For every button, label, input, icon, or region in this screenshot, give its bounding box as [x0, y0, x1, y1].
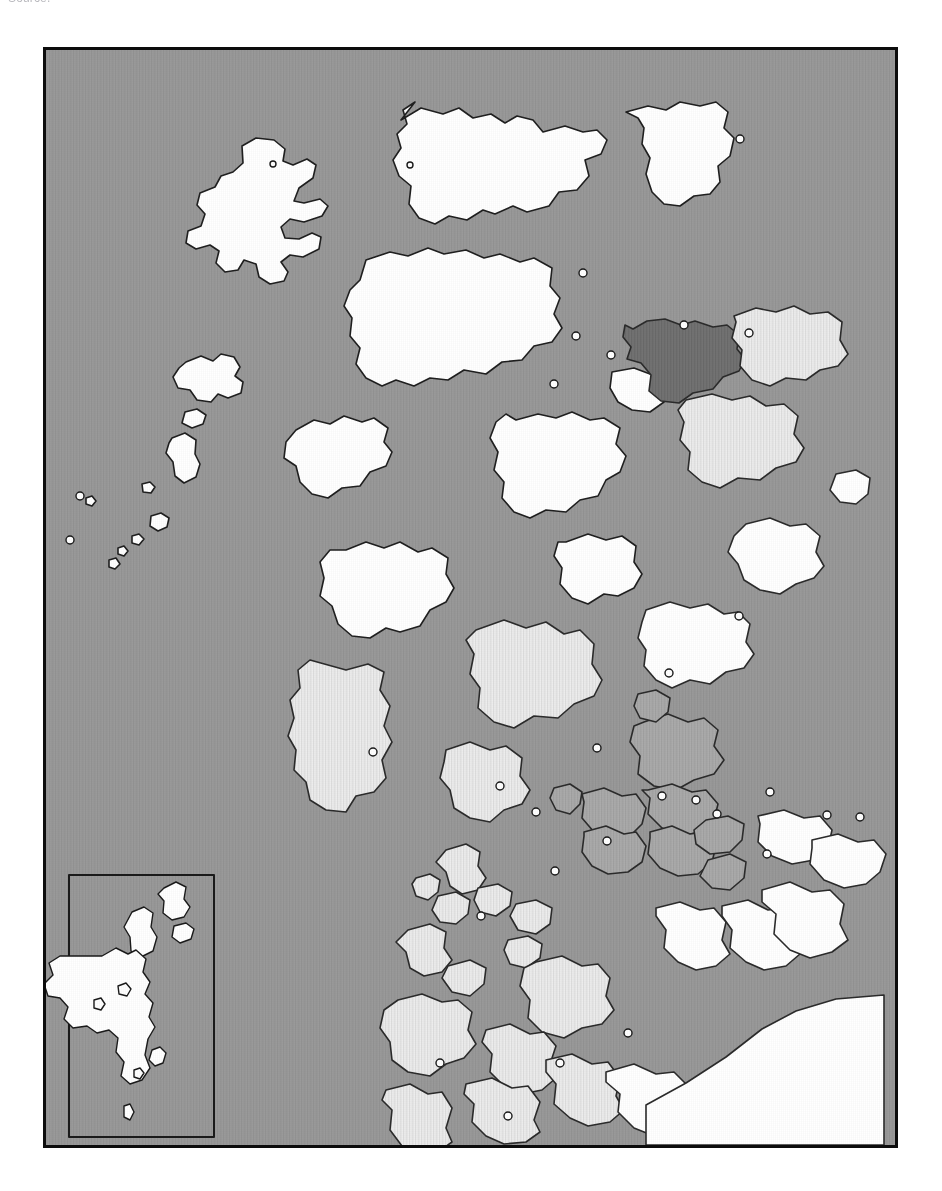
- settlement-dot: [823, 811, 831, 819]
- settlement-dot: [856, 813, 864, 821]
- settlement-dot: [766, 788, 774, 796]
- settlement-dot: [579, 269, 587, 277]
- settlement-dot: [66, 536, 74, 544]
- settlement-dot: [607, 351, 615, 359]
- settlement-dot: [532, 808, 540, 816]
- shetland-inset[interactable]: [46, 875, 214, 1137]
- settlement-dot: [270, 161, 276, 167]
- map-frame[interactable]: [43, 47, 898, 1148]
- settlement-dot: [496, 782, 504, 790]
- settlement-dot: [477, 912, 485, 920]
- settlement-dot: [551, 867, 559, 875]
- settlement-dot: [736, 135, 744, 143]
- settlement-dot: [680, 321, 688, 329]
- settlement-dot: [658, 792, 666, 800]
- sea-overlay: [795, 510, 895, 840]
- settlement-dot: [369, 748, 377, 756]
- settlement-dot: [763, 850, 771, 858]
- settlement-dot: [407, 162, 413, 168]
- settlement-dot: [735, 612, 743, 620]
- settlement-dot: [603, 837, 611, 845]
- settlement-dot: [550, 380, 558, 388]
- settlement-dot: [692, 796, 700, 804]
- scotland-map[interactable]: [46, 50, 895, 1145]
- settlement-dot: [713, 810, 721, 818]
- bressay: [149, 1047, 166, 1066]
- settlement-dot: [504, 1112, 512, 1120]
- settlement-dot: [745, 329, 753, 337]
- settlement-dot: [76, 492, 84, 500]
- settlement-dot: [436, 1059, 444, 1067]
- settlement-dot: [556, 1059, 564, 1067]
- figure-caption-top: Source.: [8, 0, 768, 5]
- settlement-dot: [665, 669, 673, 677]
- settlement-dot: [624, 1029, 632, 1037]
- settlement-dot: [572, 332, 580, 340]
- settlement-dot: [593, 744, 601, 752]
